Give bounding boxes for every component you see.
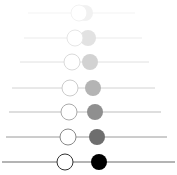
filled-circle — [91, 154, 107, 170]
filled-circle — [82, 54, 98, 70]
circle-pair-row — [12, 80, 155, 96]
circle-pair-diagram — [0, 0, 177, 175]
hollow-circle — [61, 104, 77, 120]
filled-circle — [85, 80, 101, 96]
hollow-circle — [71, 5, 87, 21]
hollow-circle — [57, 154, 73, 170]
hollow-circle — [64, 54, 80, 70]
circle-pair-row — [24, 30, 142, 46]
circle-pair-row — [28, 5, 135, 21]
circle-pair-row — [6, 129, 167, 145]
filled-circle — [89, 129, 105, 145]
hollow-circle — [60, 129, 76, 145]
filled-circle — [87, 104, 103, 120]
circle-pair-row — [20, 54, 149, 70]
circle-pair-row — [9, 104, 161, 120]
circle-pair-row — [2, 154, 175, 170]
hollow-circle — [62, 80, 78, 96]
hollow-circle — [67, 30, 83, 46]
